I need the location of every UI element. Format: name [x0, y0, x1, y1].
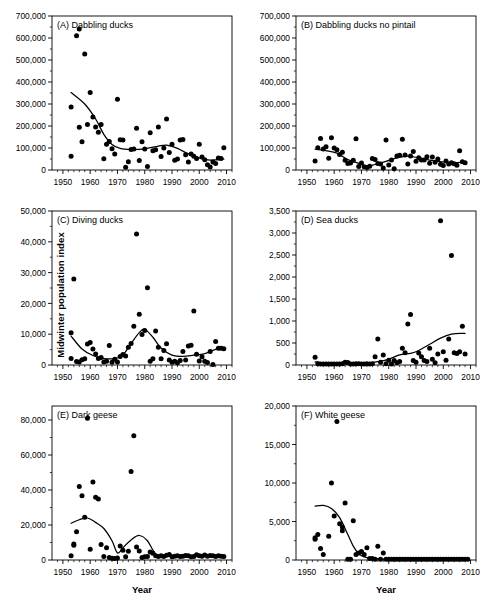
data-point	[430, 155, 435, 160]
x-tick-label: 1990	[407, 177, 426, 187]
x-tick-label: 1980	[135, 372, 154, 382]
data-point	[93, 351, 98, 356]
y-tick-label: 600,000	[260, 33, 291, 43]
data-point	[427, 161, 432, 166]
y-tick-label: 40,000	[20, 237, 46, 247]
x-tick-label: 1950	[54, 177, 73, 187]
data-point	[153, 147, 158, 152]
y-tick-label: 0	[285, 165, 290, 175]
data-point	[403, 153, 408, 158]
data-point	[313, 537, 318, 542]
data-point	[77, 26, 82, 31]
data-point	[115, 97, 120, 102]
data-point	[82, 515, 87, 520]
data-point	[354, 136, 359, 141]
data-point	[161, 348, 166, 353]
x-tick-label: 2010	[461, 372, 480, 382]
x-tick-label: 2010	[217, 372, 236, 382]
y-tick-label: 80,000	[20, 415, 46, 425]
data-point	[373, 354, 378, 359]
panel-D: 05001,0001,5002,0002,5003,0003,500195019…	[269, 206, 480, 382]
y-tick-label: 5,000	[269, 517, 290, 527]
data-point	[170, 142, 175, 147]
data-point	[332, 514, 337, 519]
data-point	[90, 114, 95, 119]
data-point	[90, 346, 95, 351]
data-point	[180, 137, 185, 142]
y-tick-label: 15,000	[264, 440, 290, 450]
y-tick-label: 700,000	[260, 11, 291, 21]
data-point	[164, 341, 169, 346]
data-points-C	[69, 232, 227, 367]
data-point	[392, 166, 397, 171]
y-axis-label-container: Midwinter population index	[0, 195, 14, 395]
data-point	[210, 362, 215, 367]
x-tick-label: 1990	[407, 567, 426, 577]
x-tick-label: 1990	[163, 567, 182, 577]
data-point	[457, 349, 462, 354]
data-point	[142, 328, 147, 333]
data-point	[129, 469, 134, 474]
data-point	[88, 340, 93, 345]
data-point	[197, 359, 202, 364]
y-tick-label: 500,000	[260, 55, 291, 65]
data-point	[340, 528, 345, 533]
y-tick-label: 500	[276, 338, 290, 348]
x-tick-label: 2000	[434, 567, 453, 577]
data-point	[381, 352, 386, 357]
data-point	[444, 358, 449, 363]
data-point	[219, 156, 224, 161]
data-point	[435, 352, 440, 357]
panel-title-D: (D) Sea ducks	[301, 215, 359, 225]
data-point	[373, 557, 378, 562]
data-point	[433, 360, 438, 365]
y-tick-label: 50,000	[20, 206, 46, 216]
y-axis-label: Midwinter population index	[55, 232, 66, 358]
data-point	[191, 309, 196, 314]
data-point	[104, 545, 109, 550]
y-tick-label: 10,000	[264, 478, 290, 488]
y-tick-label: 2,000	[269, 272, 290, 282]
data-point	[389, 157, 394, 162]
y-tick-label: 0	[41, 360, 46, 370]
x-tick-label: 1960	[81, 567, 100, 577]
data-point	[449, 253, 454, 258]
data-point	[405, 322, 410, 327]
data-point	[405, 162, 410, 167]
data-point	[362, 552, 367, 557]
x-tick-label: 1960	[325, 177, 344, 187]
panel-B: 0100,000200,000300,000400,000500,000600,…	[260, 11, 480, 187]
data-point	[351, 158, 356, 163]
data-point	[364, 545, 369, 550]
data-point	[131, 433, 136, 438]
x-tick-label: 1970	[352, 567, 371, 577]
data-point	[183, 358, 188, 363]
data-point	[145, 164, 150, 169]
x-tick-label: 1970	[108, 567, 127, 577]
data-point	[435, 157, 440, 162]
panel-F: 05,00010,00015,00020,0001950196019701980…	[264, 401, 480, 577]
x-tick-label: 1960	[81, 177, 100, 187]
data-point	[107, 139, 112, 144]
data-point	[123, 554, 128, 559]
x-tick-label: 1980	[135, 177, 154, 187]
y-tick-label: 300,000	[260, 99, 291, 109]
data-point	[400, 346, 405, 351]
data-point	[411, 149, 416, 154]
data-point	[104, 359, 109, 364]
data-point	[99, 542, 104, 547]
data-point	[446, 337, 451, 342]
data-point	[324, 144, 329, 149]
data-point	[208, 164, 213, 169]
y-tick-label: 1,500	[269, 294, 290, 304]
y-tick-label: 2,500	[269, 250, 290, 260]
data-point	[221, 554, 226, 559]
data-point	[313, 158, 318, 163]
figure-panel-grid: Midwinter population index 0100,000200,0…	[0, 0, 491, 610]
data-point	[315, 145, 320, 150]
y-tick-label: 600,000	[16, 33, 47, 43]
y-tick-label: 20,000	[20, 299, 46, 309]
data-point	[378, 557, 383, 562]
x-tick-label: 2000	[434, 177, 453, 187]
panel-title-F: (F) White geese	[301, 410, 365, 420]
